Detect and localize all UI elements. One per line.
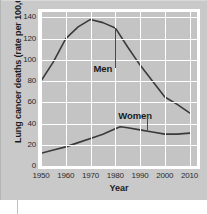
y-tick-label: 80	[2, 77, 36, 85]
gridline-vertical	[91, 12, 92, 166]
y-tick-label: 40	[2, 120, 36, 128]
x-tick-label: 1980	[107, 171, 124, 180]
x-axis-tick-labels: 1950196019701980199020002010	[38, 171, 200, 183]
y-tick-label: 20	[2, 141, 36, 149]
figure-bottom-margin	[0, 200, 207, 214]
x-tick-label: 1970	[82, 171, 99, 180]
gridline-horizontal	[41, 81, 197, 82]
series-label-men: Men	[94, 63, 113, 74]
y-tick-label: 0	[2, 162, 36, 170]
gridline-vertical	[190, 12, 191, 166]
leader-line-women	[147, 115, 148, 130]
x-axis-title: Year	[38, 183, 200, 193]
y-tick-label: 140	[2, 13, 36, 21]
plot-frame: MenWomen	[38, 9, 200, 169]
gridline-vertical	[66, 12, 67, 166]
x-tick-label: 1960	[57, 171, 74, 180]
gridline-horizontal	[41, 60, 197, 61]
figure-left-rule	[17, 200, 18, 214]
x-tick-label: 2000	[156, 171, 173, 180]
chart-figure: Lung cancer deaths (rate per 100,000) 02…	[0, 0, 207, 200]
gridline-horizontal	[41, 124, 197, 125]
leader-line-men	[115, 28, 116, 68]
y-tick-label: 100	[2, 56, 36, 64]
gridline-vertical	[140, 12, 141, 166]
x-tick-label: 2010	[181, 171, 198, 180]
gridline-horizontal	[41, 39, 197, 40]
plot-area: MenWomen	[41, 12, 197, 166]
gridline-horizontal	[41, 102, 197, 103]
gridline-horizontal	[41, 17, 197, 18]
x-tick-label: 1990	[132, 171, 149, 180]
y-axis-tick-labels: 020406080100120140	[0, 9, 36, 169]
gridline-vertical	[41, 12, 42, 166]
x-tick-label: 1950	[33, 171, 50, 180]
gridline-vertical	[165, 12, 166, 166]
y-tick-label: 120	[2, 35, 36, 43]
gridline-horizontal	[41, 145, 197, 146]
y-tick-label: 60	[2, 98, 36, 106]
series-layer	[41, 12, 197, 166]
